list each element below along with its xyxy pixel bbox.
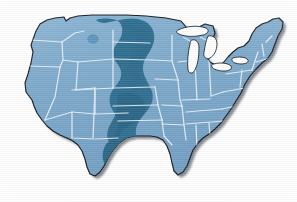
us-map-svg (0, 0, 297, 202)
state-border-ga-fl (197, 148, 224, 150)
lake-ontario (232, 57, 248, 64)
us-map-container: United States Map High Plains (Ogallala)… (0, 0, 297, 202)
map-point-marker[interactable] (88, 35, 98, 43)
